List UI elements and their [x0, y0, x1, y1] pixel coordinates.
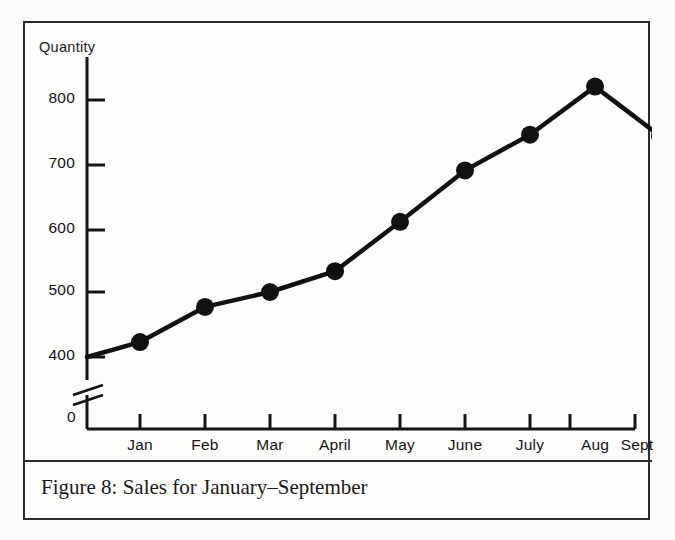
data-line-sales [87, 87, 652, 357]
y-tick-label-600: 600 [29, 219, 75, 237]
x-tick-label-april: April [319, 436, 351, 454]
figure-frame: Quantity [23, 21, 650, 520]
caption-divider [25, 460, 652, 462]
x-tick-label-june: June [448, 436, 482, 454]
x-tick-label-mar: Mar [256, 436, 283, 454]
x-tick-label-aug: Aug [581, 436, 609, 454]
x-tick-label-feb: Feb [191, 436, 218, 454]
y-tick-label-400: 400 [29, 346, 75, 364]
y-tick-label-500: 500 [29, 281, 75, 299]
data-point-july [521, 126, 539, 144]
data-point-may [391, 213, 409, 231]
figure-caption: Figure 8: Sales for January–September [41, 475, 368, 500]
y-tick-label-700: 700 [29, 154, 75, 172]
plot-area: Quantity [25, 23, 652, 522]
data-point-june [456, 161, 474, 179]
axis-break-slash-upper [73, 385, 103, 395]
data-point-april [326, 262, 344, 280]
data-point-mar [261, 283, 279, 301]
data-point-feb [196, 298, 214, 316]
data-point-aug [586, 78, 604, 96]
y-tick-label-800: 800 [29, 89, 75, 107]
x-tick-label-may: May [385, 436, 415, 454]
chart-canvas [25, 23, 652, 463]
figure-root: Quantity [0, 0, 675, 540]
x-tick-label-jan: Jan [127, 436, 153, 454]
x-tick-label-july: July [516, 436, 544, 454]
y-axis-zero-label: 0 [67, 408, 76, 426]
x-tick-label-sept: Sept [621, 436, 654, 454]
data-marker-group [131, 78, 652, 352]
data-point-jan [131, 333, 149, 351]
